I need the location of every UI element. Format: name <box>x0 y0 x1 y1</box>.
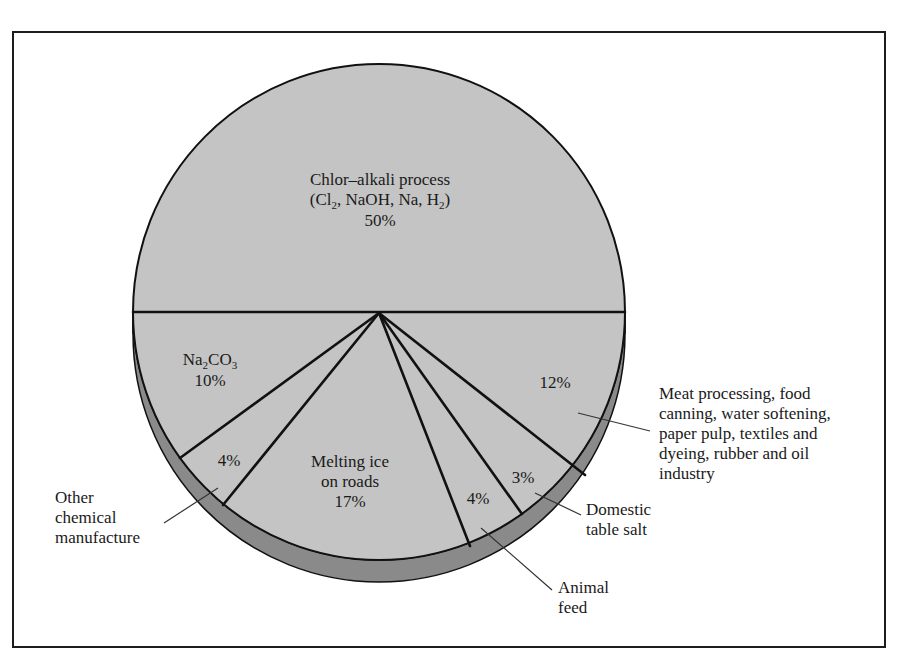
label-industry: Meat processing, food canning, water sof… <box>659 384 831 484</box>
label-na2co3: Na2CO3 10% <box>175 350 245 391</box>
label-table-salt: Domestic table salt <box>586 500 651 540</box>
label-industry-pct: 12% <box>535 373 575 393</box>
label-other-chem: Other chemical manufacture <box>55 488 140 548</box>
label-chlor-alkali: Chlor–alkali process (Cl2, NaOH, Na, H2)… <box>300 170 460 231</box>
label-melting-ice: Melting ice on roads 17% <box>295 452 405 512</box>
label-animal-feed: Animal feed <box>558 578 609 618</box>
label-other-chem-pct: 4% <box>214 451 244 471</box>
label-animal-feed-pct: 4% <box>463 489 493 509</box>
label-table-salt-pct: 3% <box>508 468 538 488</box>
pie-chart <box>0 0 903 662</box>
